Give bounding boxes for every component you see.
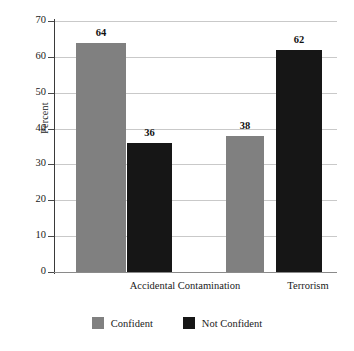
legend-label: Confident <box>111 318 153 329</box>
y-axis-tick-label: 10 <box>8 230 46 241</box>
y-axis-tick-label: 20 <box>8 194 46 205</box>
bar-value-label: 38 <box>226 121 264 132</box>
y-axis-tick-label: 40 <box>8 123 46 134</box>
bar <box>76 43 126 272</box>
legend: ConfidentNot Confident <box>0 317 354 329</box>
y-axis-tick-label: 70 <box>8 15 46 26</box>
legend-label: Not Confident <box>202 318 262 329</box>
bar <box>226 136 264 272</box>
bar-chart: Percent 010203040506070 64363862 Acciden… <box>0 0 354 351</box>
bar-value-label: 64 <box>76 28 126 39</box>
bar-value-label: 62 <box>276 35 322 46</box>
legend-item: Not Confident <box>183 317 262 329</box>
legend-swatch-black <box>183 317 195 329</box>
x-axis-line <box>54 272 337 273</box>
y-axis-tick-label: 50 <box>8 87 46 98</box>
bar <box>276 50 322 272</box>
bar-value-label: 36 <box>127 128 172 139</box>
legend-swatch-gray <box>92 317 104 329</box>
y-axis-tick-label: 0 <box>8 266 46 277</box>
y-axis-tick-label: 30 <box>8 158 46 169</box>
x-axis-category-label: Terrorism <box>208 280 354 291</box>
y-axis-tick-label: 60 <box>8 51 46 62</box>
bar <box>127 143 172 272</box>
legend-item: Confident <box>92 317 153 329</box>
bars-layer <box>54 21 337 272</box>
